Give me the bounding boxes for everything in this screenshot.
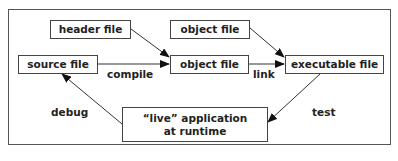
arrow-object-to-executable (250, 28, 284, 57)
node-header-file: header file (50, 20, 131, 39)
node-object-file-top: object file (170, 20, 250, 39)
node-label-line2: at runtime (164, 125, 227, 138)
node-label: object file (180, 58, 239, 71)
edge-label-test: test (312, 106, 335, 118)
edge-label-link: link (253, 68, 275, 80)
node-source-file: source file (18, 55, 98, 74)
node-executable-file: executable file (285, 55, 384, 74)
node-label: source file (27, 58, 89, 71)
node-live-application: “live” application at runtime (122, 107, 268, 142)
node-label: header file (59, 23, 123, 36)
node-label: executable file (291, 58, 378, 71)
edge-label-debug: debug (51, 106, 88, 118)
node-label-line1: “live” application (143, 112, 248, 125)
edge-label-compile: compile (107, 68, 153, 80)
arrow-header-to-object (131, 29, 169, 57)
node-label: object file (181, 23, 240, 36)
node-object-file-mid: object file (170, 55, 249, 74)
